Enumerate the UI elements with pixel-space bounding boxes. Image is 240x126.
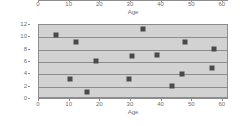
- main-scatter-chart: Beauty (attractiveness) rating) 02468101…: [0, 20, 240, 126]
- gridline: [39, 87, 227, 88]
- previous-chart-partial-axis: 0102030405060 Age: [0, 0, 240, 20]
- data-point: [67, 77, 72, 82]
- y-axis-tick-label: 6: [24, 58, 27, 65]
- gridline: [39, 50, 227, 51]
- y-axis-tick: [28, 86, 30, 87]
- plot-area: [38, 24, 228, 98]
- y-axis: 024681012: [0, 20, 38, 102]
- previous-chart-tick-label: 10: [65, 1, 72, 8]
- data-point: [182, 40, 187, 45]
- y-axis-tick-label: 12: [20, 21, 27, 28]
- y-axis-tick: [28, 36, 30, 37]
- x-axis-tick-label: 10: [65, 101, 72, 108]
- y-axis-tick-label: 4: [24, 70, 27, 77]
- data-point: [211, 47, 216, 52]
- y-axis-tick: [28, 61, 30, 62]
- previous-chart-tick-label: 50: [188, 1, 195, 8]
- data-point: [84, 89, 89, 94]
- x-axis-tick-label: 0: [36, 101, 39, 108]
- gridline: [39, 62, 227, 63]
- previous-chart-axis-title: Age: [128, 9, 139, 16]
- x-axis-title: Age: [128, 109, 139, 116]
- data-point: [141, 26, 146, 31]
- x-axis-tick-label: 50: [188, 101, 195, 108]
- y-axis-tick: [28, 73, 30, 74]
- x-axis-tick-label: 40: [157, 101, 164, 108]
- data-point: [210, 65, 215, 70]
- x-axis-tick-label: 60: [219, 101, 226, 108]
- y-axis-tick: [28, 24, 30, 25]
- previous-chart-tick-label: 30: [127, 1, 134, 8]
- x-axis-tick-label: 20: [96, 101, 103, 108]
- x-axis-line: [38, 98, 228, 99]
- previous-chart-tick-label: 20: [96, 1, 103, 8]
- x-axis-tick-label: 30: [127, 101, 134, 108]
- data-point: [93, 59, 98, 64]
- data-point: [170, 84, 175, 89]
- y-axis-tick-label: 2: [24, 82, 27, 89]
- previous-chart-tick-label: 0: [36, 1, 39, 8]
- data-point: [73, 40, 78, 45]
- gridline: [39, 37, 227, 38]
- gridline: [39, 74, 227, 75]
- data-point: [53, 33, 58, 38]
- y-axis-tick-label: 10: [20, 33, 27, 40]
- x-axis: 0102030405060 Age: [0, 98, 240, 126]
- data-point: [130, 54, 135, 59]
- scatter-plot-figure: 0102030405060 Age Beauty (attractiveness…: [0, 0, 240, 126]
- data-point: [179, 72, 184, 77]
- data-point: [154, 53, 159, 58]
- data-point: [127, 77, 132, 82]
- previous-chart-tick-label: 60: [219, 1, 226, 8]
- previous-chart-tick-label: 40: [157, 1, 164, 8]
- y-axis-tick: [28, 49, 30, 50]
- y-axis-tick-label: 8: [24, 45, 27, 52]
